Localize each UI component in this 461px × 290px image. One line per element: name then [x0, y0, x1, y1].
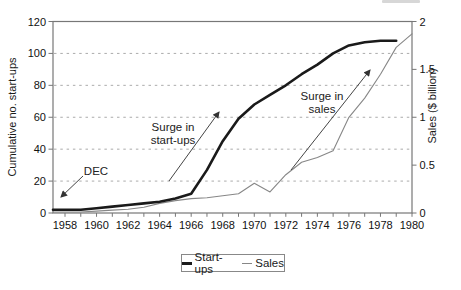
- chart-canvas: 02040608010012000.511.521958196019621964…: [0, 0, 461, 290]
- legend-item-startups: Start-ups: [182, 251, 235, 275]
- left-tick-label: 100: [28, 47, 46, 59]
- x-tick-label: 1962: [116, 219, 140, 231]
- legend: Start-ups Sales: [181, 254, 285, 272]
- x-tick-label: 1968: [210, 219, 234, 231]
- annotation-arrow-0: [61, 176, 83, 197]
- annotation-surge-startups-line1: Surge in: [151, 121, 196, 134]
- right-tick-label: 0: [420, 207, 426, 219]
- x-tick-label: 1970: [242, 219, 266, 231]
- left-tick-label: 0: [40, 207, 46, 219]
- annotation-surge-startups-line2: start-ups: [151, 134, 196, 147]
- x-tick-label: 1964: [147, 219, 171, 231]
- x-tick-label: 1972: [274, 219, 298, 231]
- annotation-arrow-2: [291, 70, 370, 170]
- annotation-surge-startups: Surge in start-ups: [151, 121, 196, 147]
- left-tick-label: 20: [34, 175, 46, 187]
- annotation-dec: DEC: [84, 165, 108, 178]
- x-tick-label: 1960: [84, 219, 108, 231]
- annotation-surge-sales-line1: Surge in: [301, 90, 344, 103]
- x-tick-label: 1976: [337, 219, 361, 231]
- annotation-surge-sales-line2: sales: [301, 103, 344, 116]
- left-tick-label: 40: [34, 143, 46, 155]
- cropped-text-artifact: [382, 0, 420, 3]
- right-tick-label: 1: [420, 111, 426, 123]
- left-tick-label: 80: [34, 79, 46, 91]
- legend-label-sales: Sales: [255, 257, 284, 269]
- chart-figure: 02040608010012000.511.521958196019621964…: [0, 0, 461, 290]
- left-axis-title: Cumulative no. start-ups: [6, 37, 20, 197]
- x-tick-label: 1966: [179, 219, 203, 231]
- sales-line-swatch-icon: [242, 263, 252, 264]
- series-line-sales: [53, 34, 412, 212]
- x-tick-label: 1980: [400, 219, 424, 231]
- x-tick-label: 1974: [305, 219, 329, 231]
- legend-item-sales: Sales: [242, 257, 284, 269]
- annotation-surge-sales: Surge in sales: [301, 90, 344, 116]
- legend-label-startups: Start-ups: [195, 251, 236, 275]
- x-tick-label: 1958: [53, 219, 77, 231]
- x-tick-label: 1978: [368, 219, 392, 231]
- right-axis-title: Sales ($ billion): [426, 46, 440, 166]
- right-tick-label: 2: [420, 16, 426, 28]
- left-tick-label: 120: [28, 16, 46, 28]
- annotation-dec-text: DEC: [84, 165, 108, 177]
- left-tick-label: 60: [34, 111, 46, 123]
- startups-line-swatch-icon: [182, 262, 192, 265]
